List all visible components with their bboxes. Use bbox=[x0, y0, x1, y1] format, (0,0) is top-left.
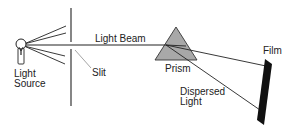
diagram-canvas bbox=[0, 0, 292, 132]
prism-label: Prism bbox=[165, 63, 191, 74]
film-label: Film bbox=[263, 45, 282, 56]
film-plate bbox=[257, 59, 272, 125]
light-bulb-icon bbox=[16, 39, 26, 64]
slit-label: Slit bbox=[92, 67, 106, 78]
slit-leader-line bbox=[75, 50, 91, 68]
dispersed-light-label-line2: Light bbox=[180, 96, 202, 107]
prism-shape bbox=[155, 27, 197, 60]
light-beam-label: Light Beam bbox=[95, 33, 146, 44]
light-source-label-line2: Source bbox=[14, 78, 46, 89]
